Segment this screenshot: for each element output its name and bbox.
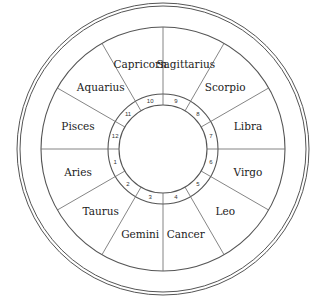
sign-label-aquarius: Aquarius	[76, 81, 125, 93]
house-number: 1	[114, 159, 118, 165]
house-number: 2	[126, 181, 130, 187]
sign-label-taurus: Taurus	[83, 205, 119, 217]
sign-label-aries: Aries	[63, 166, 92, 178]
house-number: 4	[174, 194, 178, 200]
sector-divider	[185, 43, 224, 111]
ring-circle	[119, 105, 207, 193]
house-number: 8	[196, 111, 200, 117]
house-number: 6	[209, 159, 213, 165]
sign-label-virgo: Virgo	[233, 166, 263, 178]
sign-label-libra: Libra	[234, 120, 262, 132]
house-number: 3	[149, 194, 153, 200]
sector-divider	[185, 187, 224, 255]
sector-divider	[102, 43, 141, 111]
zodiac-wheel: Aries Taurus Gemini Cancer Leo Virgo Lib…	[0, 0, 321, 306]
sector-divider	[102, 187, 141, 255]
house-number: 5	[196, 181, 200, 187]
house-number: 11	[125, 111, 132, 117]
sign-label-gemini: Gemini	[121, 228, 160, 240]
house-number: 7	[209, 133, 213, 139]
house-number: 10	[147, 98, 154, 104]
sign-label-capricorn: Capricorn	[114, 58, 168, 70]
house-number: 9	[174, 98, 178, 104]
sign-label-cancer: Cancer	[167, 228, 206, 240]
sign-label-pisces: Pisces	[61, 120, 94, 132]
sign-label-scorpio: Scorpio	[205, 81, 246, 93]
house-number: 12	[112, 133, 119, 139]
sign-label-leo: Leo	[215, 205, 235, 217]
house-numbers: 1 2 3 4 5 6 7 8 9 10 11 12	[112, 98, 213, 200]
